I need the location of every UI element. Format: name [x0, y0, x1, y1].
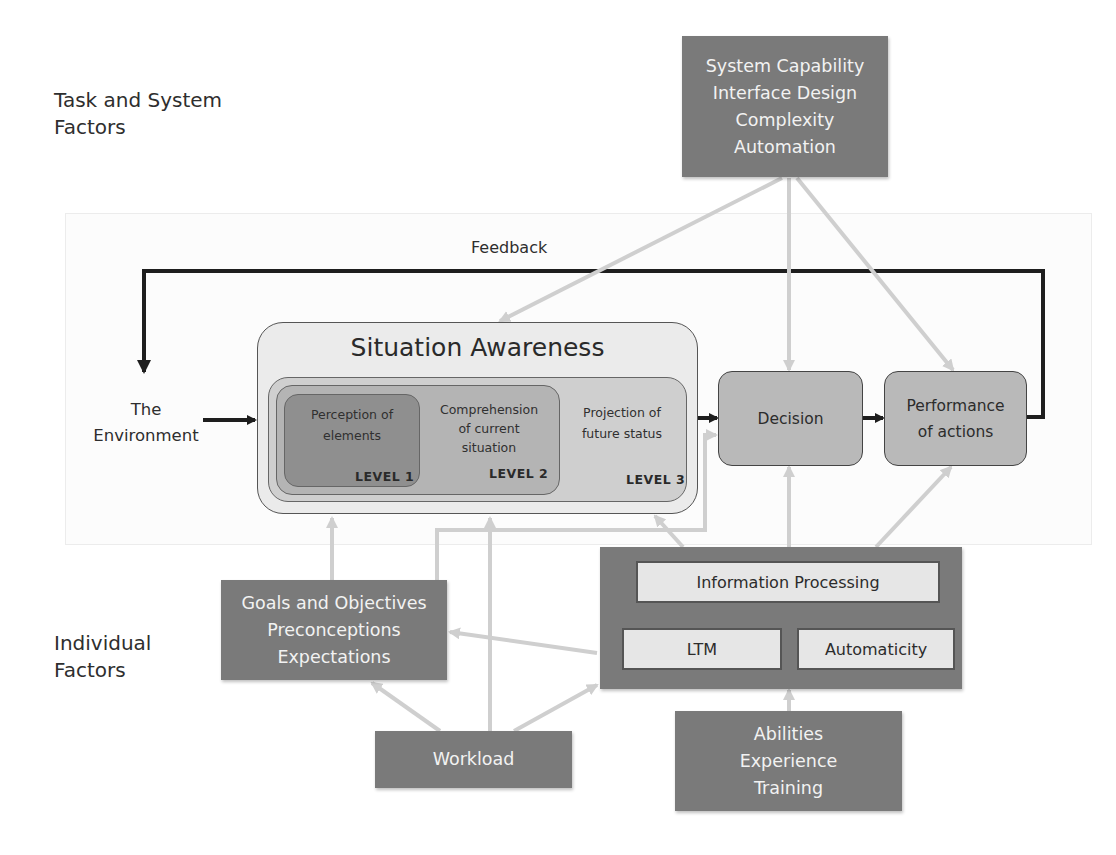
performance-line1: Performance	[906, 393, 1004, 419]
level-2-line1: Comprehension	[422, 400, 556, 419]
individual-factors-label: Individual Factors	[54, 630, 151, 684]
level-1-line2: elements	[284, 425, 420, 446]
abilities-experience-training-box: Abilities Experience Training	[675, 711, 902, 811]
information-processing-box: Information Processing	[636, 561, 940, 603]
level-1-tag: LEVEL 1	[355, 469, 414, 484]
experience-text: Experience	[740, 748, 838, 775]
system-capability-text: System Capability	[706, 53, 865, 80]
complexity-text: Complexity	[736, 107, 835, 134]
level-1-text: Perception of elements	[284, 404, 420, 446]
processing-to-goals-arrow	[450, 632, 597, 653]
interface-design-text: Interface Design	[713, 80, 857, 107]
level-3-line2: future status	[566, 423, 678, 444]
workload-to-goals-arrow	[372, 683, 440, 731]
workload-to-processing-arrow	[514, 685, 597, 731]
level-3-line1: Projection of	[566, 402, 678, 423]
individual-factors-line1: Individual	[54, 630, 151, 657]
situation-awareness-title: Situation Awareness	[258, 331, 697, 365]
automaticity-box: Automaticity	[797, 628, 955, 670]
workload-box: Workload	[375, 731, 572, 788]
processing-to-performance-arrow	[876, 467, 951, 547]
automaticity-label: Automaticity	[825, 640, 927, 659]
information-processing-label: Information Processing	[696, 573, 879, 592]
task-system-factors-line1: Task and System	[54, 87, 222, 114]
level-2-text: Comprehension of current situation	[422, 400, 556, 457]
performance-box: Performance of actions	[884, 371, 1027, 466]
task-to-performance-arrow	[797, 178, 953, 370]
environment-line2: Environment	[84, 423, 208, 449]
performance-line2: of actions	[918, 419, 994, 445]
level-3-tag: LEVEL 3	[626, 472, 685, 487]
individual-factors-line2: Factors	[54, 657, 151, 684]
level-2-line2: of current	[422, 419, 556, 438]
workload-label: Workload	[433, 746, 515, 773]
decision-label: Decision	[758, 406, 824, 432]
decision-box: Decision	[718, 371, 863, 466]
environment-label: The Environment	[84, 397, 208, 449]
level-3-text: Projection of future status	[566, 402, 678, 444]
task-system-factors-box: System Capability Interface Design Compl…	[682, 36, 888, 177]
abilities-text: Abilities	[754, 721, 823, 748]
level-2-line3: situation	[422, 438, 556, 457]
feedback-label: Feedback	[471, 238, 547, 257]
environment-line1: The	[84, 397, 208, 423]
training-text: Training	[754, 775, 823, 802]
preconceptions-text: Preconceptions	[267, 617, 400, 644]
level-2-tag: LEVEL 2	[489, 466, 548, 481]
task-system-factors-line2: Factors	[54, 114, 222, 141]
ltm-label: LTM	[687, 640, 717, 659]
goals-objectives-text: Goals and Objectives	[241, 590, 426, 617]
goals-objectives-box: Goals and Objectives Preconceptions Expe…	[221, 580, 447, 680]
ltm-box: LTM	[622, 628, 782, 670]
expectations-text: Expectations	[277, 644, 390, 671]
task-system-factors-label: Task and System Factors	[54, 87, 222, 141]
level-1-line1: Perception of	[284, 404, 420, 425]
automation-text: Automation	[734, 134, 836, 161]
